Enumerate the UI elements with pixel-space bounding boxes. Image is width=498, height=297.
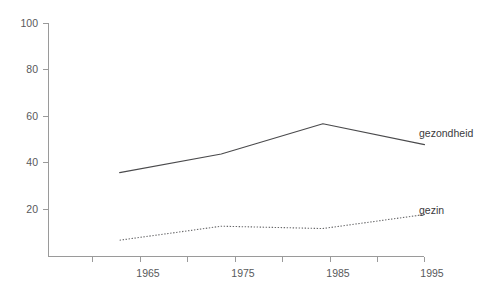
y-tick-label-60: 60 xyxy=(26,110,38,122)
series-group xyxy=(120,124,425,241)
x-tick-label-1965: 1965 xyxy=(136,267,160,279)
line-chart: 100 80 60 40 20 1965 1975 1985 1995 gezo… xyxy=(0,0,498,297)
y-axis-tick-labels: 100 80 60 40 20 xyxy=(20,17,38,215)
chart-canvas: 100 80 60 40 20 1965 1975 1985 1995 gezo… xyxy=(0,0,498,297)
series-line-gezin xyxy=(120,215,425,241)
series-labels-group: gezondheid gezin xyxy=(419,127,473,216)
y-tick-label-40: 40 xyxy=(26,156,38,168)
y-tick-label-20: 20 xyxy=(26,203,38,215)
axis-lines xyxy=(49,23,425,257)
series-label-gezondheid: gezondheid xyxy=(419,127,473,139)
x-tick-label-1975: 1975 xyxy=(231,267,255,279)
x-axis-tick-labels: 1965 1975 1985 1995 xyxy=(136,267,444,279)
series-label-gezin: gezin xyxy=(419,204,444,216)
x-tick-label-1985: 1985 xyxy=(326,267,350,279)
y-tick-label-100: 100 xyxy=(20,17,38,29)
series-line-gezondheid xyxy=(120,124,425,173)
x-tick-label-1995: 1995 xyxy=(420,267,444,279)
y-tick-label-80: 80 xyxy=(26,63,38,75)
